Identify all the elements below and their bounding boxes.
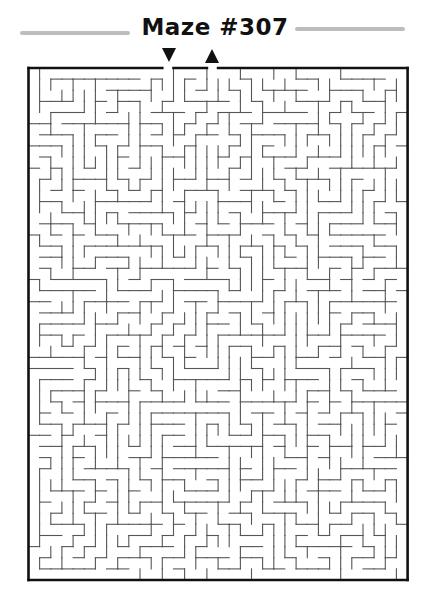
maze-walls xyxy=(29,68,408,580)
maze-grid[interactable] xyxy=(0,0,436,601)
